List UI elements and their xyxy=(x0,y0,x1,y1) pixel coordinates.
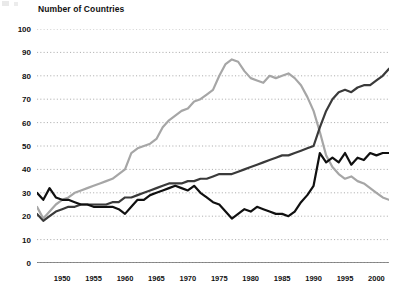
x-tick-label: 1990 xyxy=(305,274,322,283)
x-tick-label: 1985 xyxy=(274,274,291,283)
x-axis-labels: 1950195519601965197019751980198519901995… xyxy=(37,273,389,287)
x-tick-label: 1970 xyxy=(180,274,197,283)
y-axis-labels: 0102030405060708090100 xyxy=(0,29,33,263)
data-line-series-black xyxy=(37,153,389,219)
x-tick-label: 1950 xyxy=(54,274,71,283)
scan-artifact xyxy=(2,1,9,6)
y-tick-label: 0 xyxy=(27,259,31,268)
x-tick-label: 1975 xyxy=(211,274,228,283)
plot-area xyxy=(37,29,389,263)
y-tick-label: 20 xyxy=(22,212,31,221)
scan-artifact xyxy=(14,2,18,6)
y-tick-label: 100 xyxy=(18,25,31,34)
y-tick-label: 60 xyxy=(22,118,31,127)
y-tick-label: 40 xyxy=(22,165,31,174)
x-tick-label: 1980 xyxy=(242,274,259,283)
y-tick-label: 70 xyxy=(22,95,31,104)
x-tick-label: 1965 xyxy=(148,274,165,283)
chart-container: Number of Countries 01020304050607080901… xyxy=(0,0,408,295)
y-tick-label: 80 xyxy=(22,71,31,80)
data-line-series-light-gray xyxy=(37,59,389,218)
x-tick-label: 2000 xyxy=(368,274,385,283)
y-tick-label: 50 xyxy=(22,142,31,151)
y-tick-label: 10 xyxy=(22,235,31,244)
x-tick-label: 1955 xyxy=(85,274,102,283)
page-title: Number of Countries xyxy=(38,4,124,14)
y-tick-label: 90 xyxy=(22,48,31,57)
chart-svg xyxy=(37,29,389,263)
y-tick-label: 30 xyxy=(22,188,31,197)
x-tick-label: 1995 xyxy=(337,274,354,283)
data-line-series-dark-gray xyxy=(37,69,389,221)
x-tick-label: 1960 xyxy=(117,274,134,283)
